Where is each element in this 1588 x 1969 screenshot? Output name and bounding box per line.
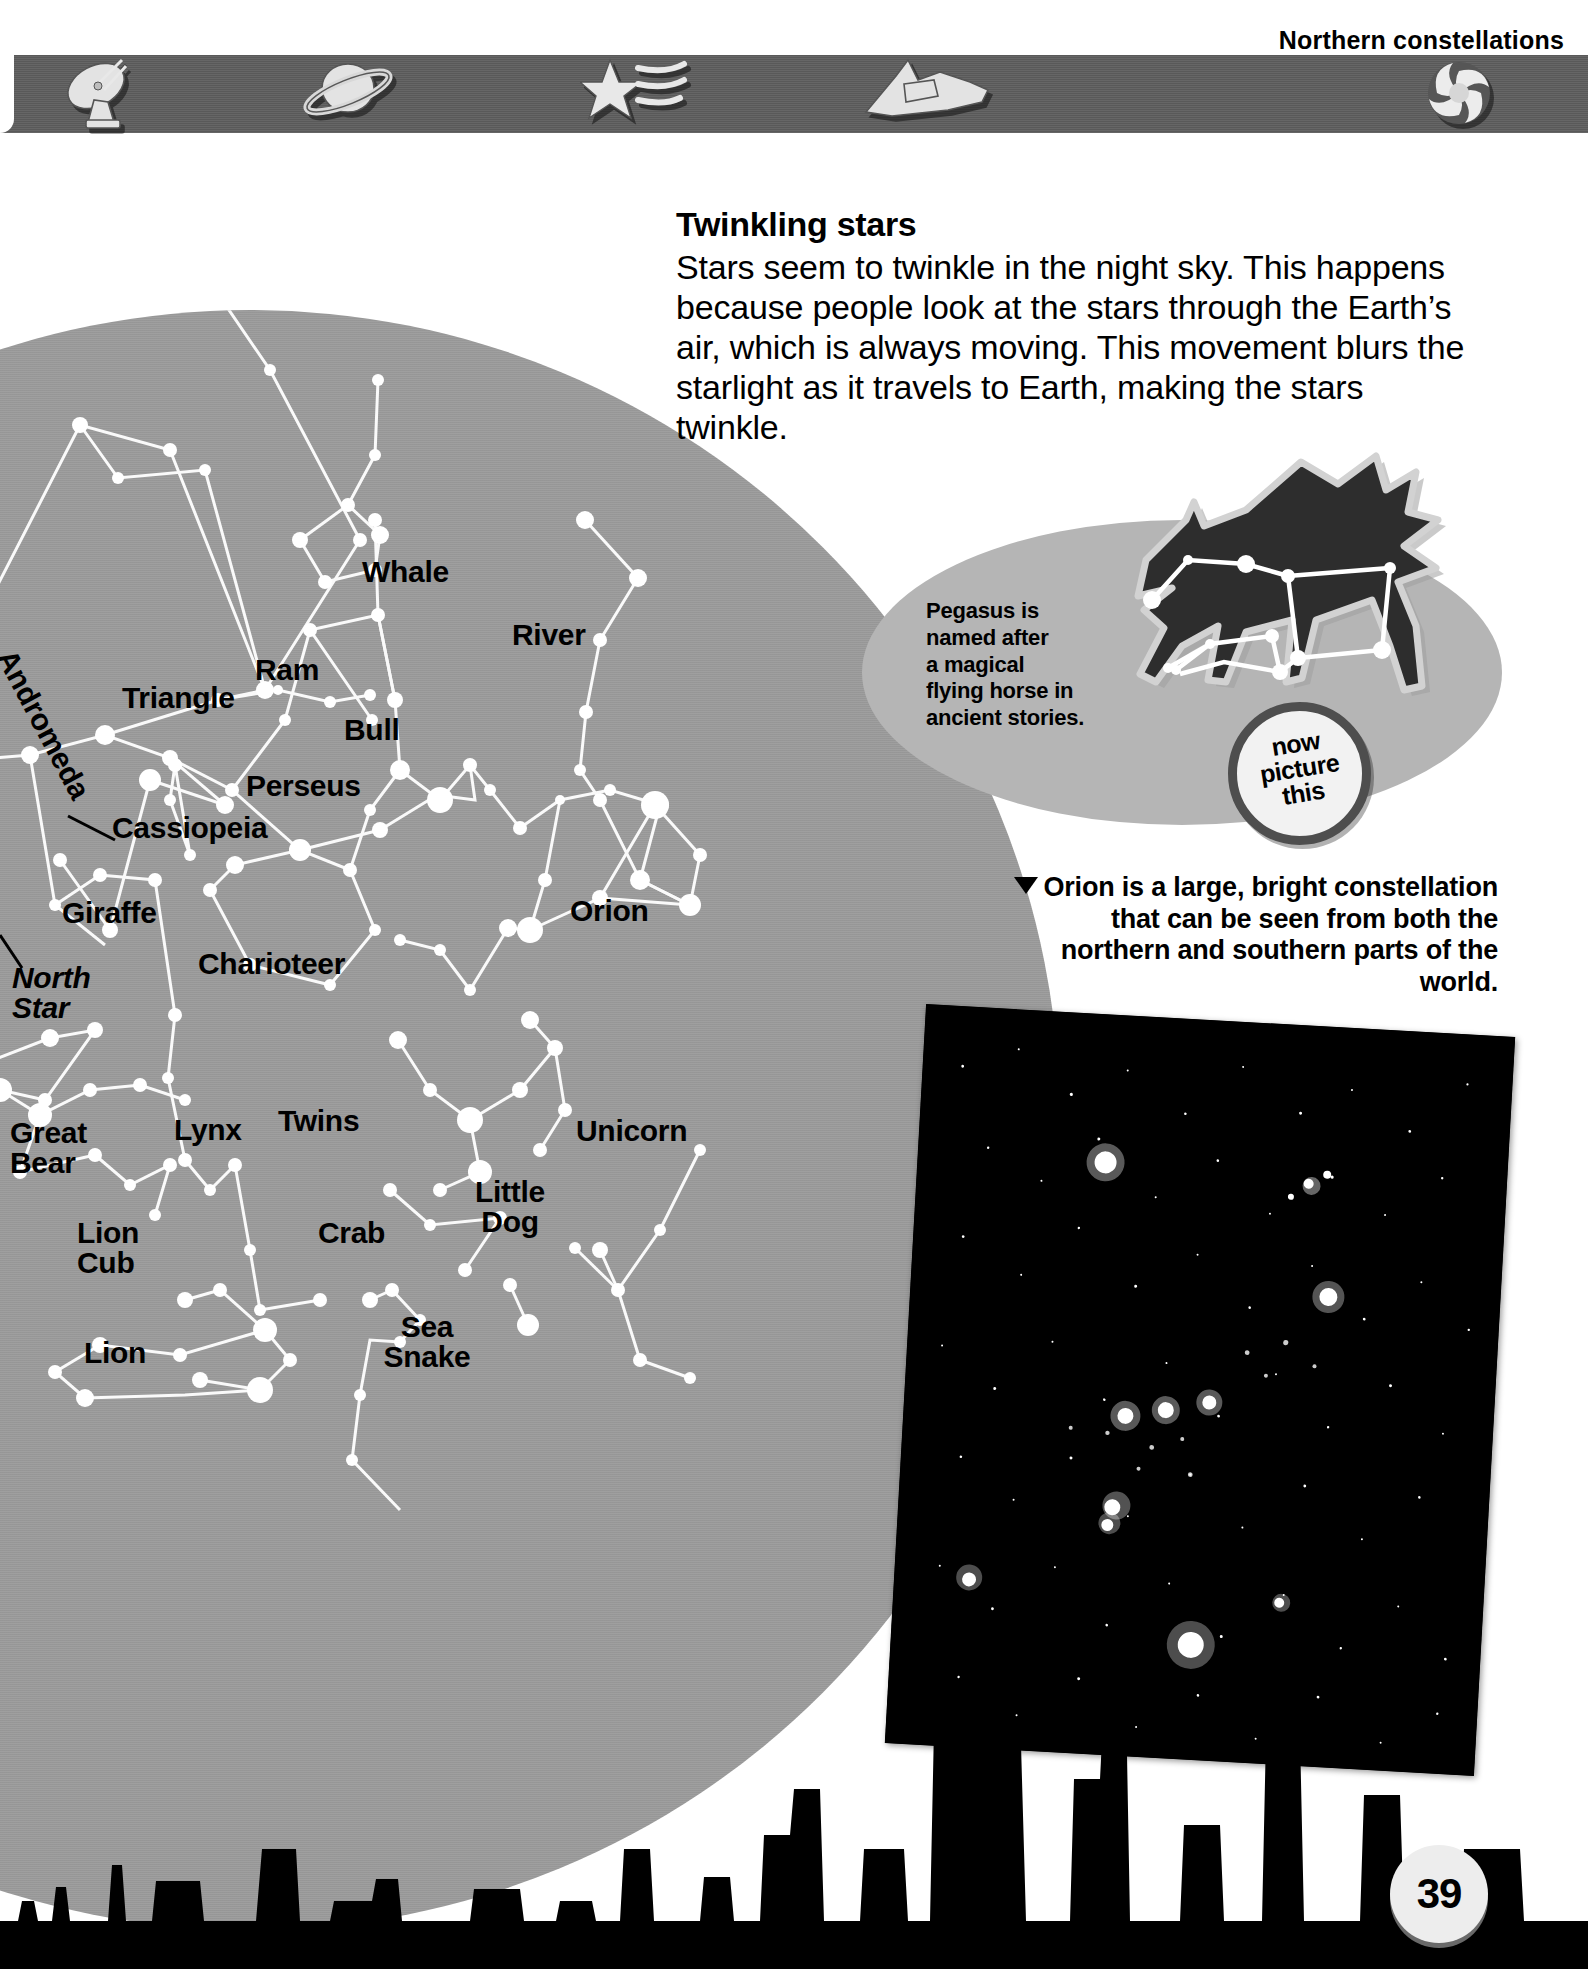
constellation-label-lynx: Lynx <box>174 1115 242 1145</box>
constellation-label-lion-cub: Lion Cub <box>77 1218 197 1278</box>
space-shuttle-icon <box>862 58 992 120</box>
orion-caption: Orion is a large, bright constellation t… <box>1010 872 1498 998</box>
satellite-dish-icon <box>52 58 148 130</box>
constellation-label-twins: Twins <box>278 1106 359 1136</box>
constellation-label-triangle: Triangle <box>122 683 235 713</box>
constellation-label-crab: Crab <box>318 1218 385 1248</box>
constellation-label-ram: Ram <box>255 655 319 685</box>
page-number-badge: 39 <box>1390 1845 1488 1943</box>
now-picture-this-label: now picture this <box>1232 722 1367 816</box>
page-title: Northern constellations <box>1279 26 1564 55</box>
constellation-label-little-dog: Little Dog <box>450 1177 570 1237</box>
constellation-label-charioteer: Charioteer <box>198 949 345 979</box>
twinkling-stars-section: Twinkling stars Stars seem to twinkle in… <box>676 205 1466 448</box>
constellation-label-sea-snake: Sea Snake <box>357 1312 497 1372</box>
spiral-galaxy-icon <box>1418 58 1500 128</box>
constellation-label-whale: Whale <box>362 557 449 587</box>
page-number-label: 39 <box>1390 1845 1488 1943</box>
orion-caption-text: Orion is a large, bright constellation t… <box>1044 872 1498 997</box>
orion-photograph <box>885 1004 1515 1776</box>
ringed-planet-icon <box>300 58 396 126</box>
pegasus-caption: Pegasus is named after a magical flying … <box>926 598 1084 732</box>
constellation-label-giraffe: Giraffe <box>62 898 157 928</box>
shooting-star-icon <box>580 58 690 124</box>
constellation-label-perseus: Perseus <box>246 771 361 801</box>
constellation-label-unicorn: Unicorn <box>576 1116 687 1146</box>
constellation-label-great-bear: Great Bear <box>10 1118 140 1178</box>
constellation-label-bull: Bull <box>344 715 399 745</box>
constellation-label-river: River <box>512 620 586 650</box>
header-band <box>0 55 1588 133</box>
twinkling-stars-body: Stars seem to twinkle in the night sky. … <box>676 248 1466 448</box>
now-picture-this-badge[interactable]: now picture this <box>1228 702 1371 845</box>
constellation-label-orion: Orion <box>570 896 649 926</box>
constellation-label-lion: Lion <box>84 1338 146 1368</box>
header-band-notch <box>0 55 14 133</box>
twinkling-stars-heading: Twinkling stars <box>676 205 1466 244</box>
constellation-label-north-star: North Star <box>12 963 122 1023</box>
constellation-label-cassiopeia: Cassiopeia <box>112 813 267 843</box>
triangle-down-icon <box>1014 877 1038 894</box>
